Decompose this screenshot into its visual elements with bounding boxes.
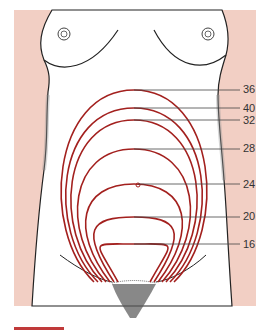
label-week-40: 40 bbox=[243, 103, 255, 114]
accent-bar bbox=[14, 327, 64, 330]
torso-illustration bbox=[0, 0, 268, 332]
label-week-32: 32 bbox=[243, 115, 255, 126]
label-week-28: 28 bbox=[243, 143, 255, 154]
label-week-36: 36 bbox=[243, 84, 255, 95]
label-week-20: 20 bbox=[243, 211, 255, 222]
label-week-24: 24 bbox=[243, 179, 255, 190]
label-week-16: 16 bbox=[243, 239, 255, 250]
